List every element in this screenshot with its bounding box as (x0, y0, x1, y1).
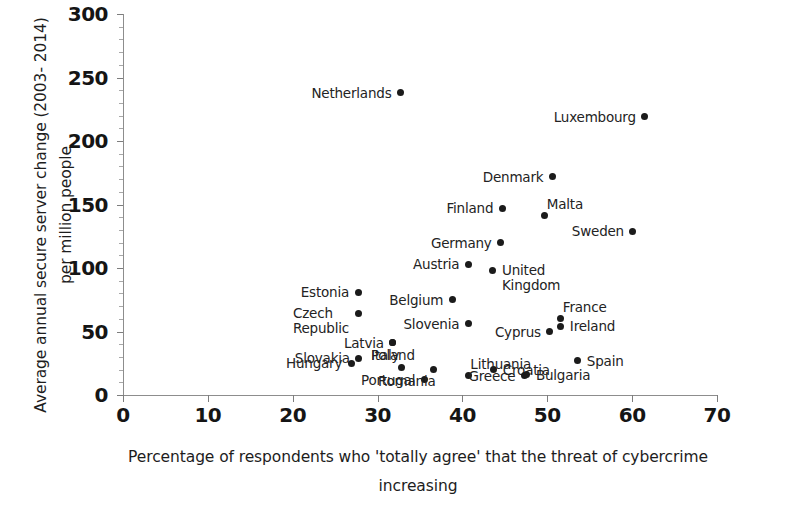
data-point-label: Malta (547, 196, 583, 211)
data-point (641, 113, 648, 120)
y-tick-minor (119, 357, 123, 358)
data-point (355, 289, 362, 296)
y-tick-minor (119, 370, 123, 371)
data-point (523, 371, 530, 378)
x-tick-label: 30 (364, 403, 391, 427)
x-tick-label: 20 (279, 403, 306, 427)
data-point-label: Czech Republic (293, 306, 349, 336)
x-tick-label: 50 (534, 403, 561, 427)
y-tick-minor (119, 306, 123, 307)
y-tick-minor (119, 166, 123, 167)
data-point (629, 228, 636, 235)
x-tick (208, 395, 209, 402)
y-tick-minor (119, 217, 123, 218)
data-point-label: Bulgaria (536, 367, 590, 382)
y-tick-minor (119, 103, 123, 104)
x-tick (632, 395, 633, 402)
data-point (398, 364, 405, 371)
data-point (397, 89, 404, 96)
y-tick-minor (119, 255, 123, 256)
x-tick (462, 395, 463, 402)
data-point (541, 212, 548, 219)
y-tick-minor (119, 179, 123, 180)
data-point (355, 310, 362, 317)
data-point-label: Netherlands (311, 85, 391, 100)
data-point (348, 360, 355, 367)
y-tick-minor (119, 192, 123, 193)
x-tick-label: 40 (449, 403, 476, 427)
y-tick: 150 (117, 205, 123, 206)
data-point (497, 239, 504, 246)
x-tick (123, 395, 124, 402)
y-tick-minor (119, 90, 123, 91)
y-tick-minor (119, 319, 123, 320)
data-point-label: Romania (378, 373, 436, 388)
data-point-label: Greece (469, 368, 516, 383)
y-tick-minor (119, 382, 123, 383)
x-tick-label: 60 (619, 403, 646, 427)
x-tick (547, 395, 548, 402)
x-tick (293, 395, 294, 402)
y-tick: 50 (117, 332, 123, 333)
data-point (546, 328, 553, 335)
data-point-label: Germany (431, 235, 492, 250)
x-tick-label: 10 (194, 403, 221, 427)
data-point (557, 323, 564, 330)
y-tick-minor (119, 52, 123, 53)
data-point (465, 320, 472, 327)
y-tick-minor (119, 230, 123, 231)
data-point (499, 205, 506, 212)
x-tick-label: 0 (116, 403, 129, 427)
data-point-label: Italy (371, 348, 399, 363)
data-point-label: Spain (587, 353, 624, 368)
y-tick: 250 (117, 78, 123, 79)
y-axis-line (123, 14, 124, 396)
data-point (449, 296, 456, 303)
data-point-label: Sweden (572, 224, 624, 239)
data-point-label: Slovenia (404, 316, 460, 331)
data-point-label: Ireland (570, 319, 615, 334)
scatter-chart-figure: Average annual secure server change (200… (0, 0, 792, 505)
data-point-label: Austria (413, 257, 459, 272)
x-tick (378, 395, 379, 402)
data-point (465, 261, 472, 268)
data-point-label: France (563, 299, 607, 314)
y-tick-minor (119, 293, 123, 294)
x-axis-title: Percentage of respondents who 'totally a… (123, 443, 713, 501)
x-tick (717, 395, 718, 402)
data-point-label: Cyprus (495, 324, 541, 339)
x-axis-line (123, 395, 718, 396)
y-tick-minor (119, 65, 123, 66)
data-point (489, 267, 496, 274)
y-tick-minor (119, 39, 123, 40)
data-point (389, 339, 396, 346)
y-tick-label: 200 (68, 129, 108, 153)
x-tick-label: 70 (704, 403, 731, 427)
data-point-label: United Kingdom (502, 263, 560, 293)
data-point (574, 357, 581, 364)
data-point-label: Hungary (286, 356, 342, 371)
y-tick: 300 (117, 14, 123, 15)
y-tick-label: 300 (68, 2, 108, 26)
plot-area: 050100150200250300 010203040506070 Nethe… (123, 14, 717, 395)
y-tick-label: 0 (95, 383, 108, 407)
y-tick-minor (119, 281, 123, 282)
y-tick: 100 (117, 268, 123, 269)
y-tick-minor (119, 128, 123, 129)
data-point-label: Luxembourg (554, 109, 636, 124)
y-tick-label: 250 (68, 66, 108, 90)
y-tick-minor (119, 116, 123, 117)
y-tick-minor (119, 344, 123, 345)
y-tick-label: 50 (81, 320, 108, 344)
data-point (355, 355, 362, 362)
y-tick-minor (119, 154, 123, 155)
data-point (549, 173, 556, 180)
data-point-label: Belgium (389, 292, 443, 307)
data-point-label: Finland (446, 201, 493, 216)
y-tick-label: 150 (68, 193, 108, 217)
data-point (557, 315, 564, 322)
data-point-label: Estonia (301, 285, 349, 300)
y-tick-label: 100 (68, 256, 108, 280)
y-tick-minor (119, 243, 123, 244)
y-tick-minor (119, 27, 123, 28)
